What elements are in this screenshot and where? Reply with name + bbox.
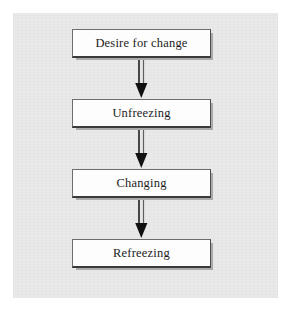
down-arrow-icon xyxy=(132,200,151,239)
flow-node-changing[interactable]: Changing xyxy=(72,169,211,198)
page: Desire for change Unfreezing xyxy=(0,0,291,310)
down-arrow-icon xyxy=(132,60,151,99)
flow-node-desire-for-change[interactable]: Desire for change xyxy=(72,29,211,58)
flow-node-label: Desire for change xyxy=(95,37,187,50)
down-arrow-icon xyxy=(132,130,151,169)
flow-node-label: Changing xyxy=(116,177,166,190)
diagram-panel: Desire for change Unfreezing xyxy=(13,13,278,298)
flow-node-label: Unfreezing xyxy=(112,107,170,120)
flow-node-label: Refreezing xyxy=(113,247,170,260)
flow-node-refreezing[interactable]: Refreezing xyxy=(72,239,211,268)
flow-node-unfreezing[interactable]: Unfreezing xyxy=(72,99,211,128)
flowchart: Desire for change Unfreezing xyxy=(13,13,278,298)
